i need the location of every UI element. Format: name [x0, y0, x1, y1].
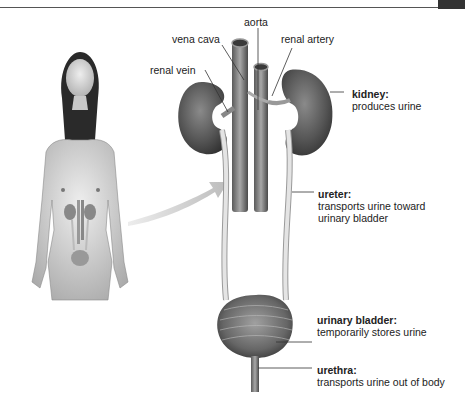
label-urinary-bladder: urinary bladder: temporarily stores urin…: [317, 314, 427, 338]
bladder-term: urinary bladder:: [317, 314, 427, 326]
ureter-desc-2: urinary bladder: [318, 212, 425, 224]
label-urethra: urethra: transports urine out of body: [317, 364, 445, 388]
label-renal-artery: renal artery: [281, 33, 334, 45]
vena-cava-vessel: [232, 42, 248, 212]
label-ureter: ureter: transports urine toward urinary …: [318, 188, 425, 224]
ureter-desc-1: transports urine toward: [318, 200, 425, 212]
urinary-bladder: [217, 295, 293, 358]
kidney-term: kidney:: [352, 88, 421, 100]
aorta-vessel: [254, 66, 268, 212]
label-vena-cava: vena cava: [172, 33, 220, 45]
urethra-term: urethra:: [317, 364, 445, 376]
kidney-desc: produces urine: [352, 100, 421, 112]
label-kidney: kidney: produces urine: [352, 88, 421, 112]
left-kidney: [178, 82, 227, 154]
zoom-arrow: [128, 182, 228, 226]
urethra-desc: transports urine out of body: [317, 376, 445, 388]
urethra: [251, 356, 259, 392]
human-figure: [32, 52, 128, 300]
label-aorta: aorta: [244, 16, 268, 28]
label-renal-vein: renal vein: [150, 64, 196, 76]
ureter-term: ureter:: [318, 188, 425, 200]
bladder-desc: temporarily stores urine: [317, 326, 427, 338]
